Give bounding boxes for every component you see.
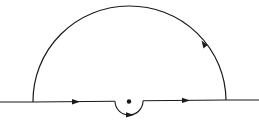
- arrow-right-icon: [182, 98, 190, 103]
- arrow-right-icon: [126, 112, 134, 117]
- contour-diagram: [0, 0, 259, 126]
- large-semicircle-arc: [33, 6, 226, 102]
- arrow-right-icon: [72, 99, 80, 104]
- singular-point: [127, 99, 131, 103]
